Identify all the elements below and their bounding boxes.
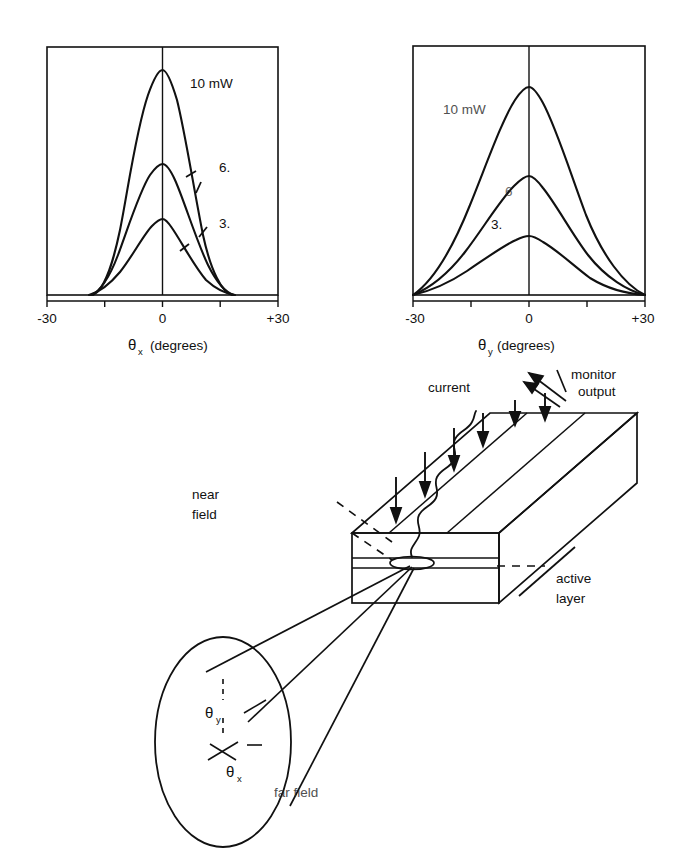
near-field-dashed-leader <box>337 502 392 560</box>
label-near-field-line1: near <box>192 487 220 502</box>
laser-diode-diagram: θ y θ x current monitor output near fiel… <box>155 367 637 847</box>
label-output: output <box>578 384 616 399</box>
xaxis-units: (degrees) <box>497 338 555 353</box>
xaxis-theta-subscript: x <box>138 346 143 357</box>
theta-y-indicator <box>244 700 266 713</box>
curve-label-6mw: 6 <box>505 184 513 199</box>
xaxis-theta-subscript: y <box>488 346 493 357</box>
plot-theta-x: 10 mW 6. 3. -30 0 +30 θ x (degrees) <box>37 47 289 357</box>
curve-label-3mw: 3. <box>219 216 230 231</box>
far-field-theta-y-symbol: θ <box>205 704 213 721</box>
figure-root: 10 mW 6. 3. -30 0 +30 θ x (degrees) 10 m… <box>0 0 684 865</box>
curve-label-10mw: 10 mW <box>443 102 486 117</box>
curve-label-3mw: 3. <box>491 217 502 232</box>
far-field-cone <box>206 566 414 806</box>
label-active-layer-line1: active <box>556 571 591 586</box>
xtick-zero: 0 <box>159 311 167 326</box>
label-active-layer-line2: layer <box>556 591 586 606</box>
current-arrow-4 <box>478 413 488 446</box>
far-field-theta-x-subscript: x <box>237 773 242 784</box>
xtick-minus30: -30 <box>405 311 425 326</box>
current-arrow-2 <box>420 452 430 496</box>
xtick-plus30: +30 <box>267 311 290 326</box>
far-field-ellipse <box>155 637 291 847</box>
curve-label-6mw: 6. <box>219 160 230 175</box>
xaxis-theta-symbol: θ <box>128 336 136 353</box>
plot-theta-y: 10 mW 6 3. -30 0 +30 θ y (degrees) <box>405 46 654 357</box>
figure-svg: 10 mW 6. 3. -30 0 +30 θ x (degrees) 10 m… <box>0 0 684 865</box>
label-far-field: far field <box>274 785 318 800</box>
far-field-theta-x-symbol: θ <box>226 763 234 780</box>
xaxis-units: (degrees) <box>150 338 208 353</box>
xtick-zero: 0 <box>525 311 533 326</box>
far-field-theta-y-subscript: y <box>216 714 221 725</box>
label-monitor: monitor <box>571 367 617 382</box>
monitor-arrow-stem <box>557 370 566 392</box>
leader-6mw-b <box>196 182 201 193</box>
curve-label-10mw: 10 mW <box>190 76 233 91</box>
monitor-arrow-1 <box>524 382 560 407</box>
current-arrow-1 <box>391 477 401 522</box>
xtick-plus30: +30 <box>632 311 655 326</box>
xtick-minus30: -30 <box>37 311 57 326</box>
stripe-guide-right <box>447 413 585 533</box>
label-current: current <box>428 380 470 395</box>
stripe-guide-left <box>389 413 527 533</box>
label-near-field-line2: field <box>192 507 217 522</box>
xaxis-theta-symbol: θ <box>478 336 486 353</box>
